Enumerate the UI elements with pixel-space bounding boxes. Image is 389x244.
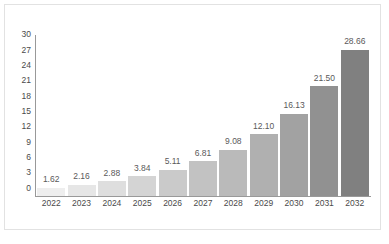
bar[interactable] — [219, 150, 247, 196]
bar-value-label: 9.08 — [225, 137, 242, 146]
bar-slot[interactable]: 5.11 — [158, 35, 188, 196]
bar[interactable] — [98, 181, 126, 196]
x-tick-label: 2027 — [188, 199, 218, 208]
bar-slot[interactable]: 28.66 — [340, 35, 370, 196]
y-tick-label: 15 — [9, 107, 31, 116]
bar-value-label: 6.81 — [195, 149, 212, 158]
y-tick-label: 24 — [9, 61, 31, 70]
bar-slot[interactable]: 6.81 — [188, 35, 218, 196]
x-tick-label: 2023 — [67, 199, 97, 208]
x-tick-label: 2029 — [249, 199, 279, 208]
x-tick-label: 2030 — [279, 199, 309, 208]
bar[interactable] — [128, 176, 156, 196]
y-tick-label: 30 — [9, 30, 31, 39]
bar-slot[interactable]: 9.08 — [218, 35, 248, 196]
bar-value-label: 1.62 — [43, 175, 60, 184]
bar[interactable] — [310, 86, 338, 196]
bar[interactable] — [68, 185, 96, 196]
bar[interactable] — [189, 161, 217, 196]
bar-value-label: 5.11 — [165, 157, 181, 166]
bar-slot[interactable]: 1.62 — [36, 35, 66, 196]
chart-figure: 036912151821242730 1.622.162.883.845.116… — [0, 0, 389, 244]
x-tick-label: 2022 — [36, 199, 66, 208]
x-tick-label: 2026 — [158, 199, 188, 208]
bar-value-label: 2.16 — [73, 172, 90, 181]
bar-value-label: 2.88 — [104, 169, 121, 178]
y-tick-label: 6 — [9, 153, 31, 162]
x-axis-line — [35, 196, 371, 197]
x-tick-label: 2032 — [340, 199, 370, 208]
y-tick-label: 27 — [9, 45, 31, 54]
x-axis-ticks: 2022202320242025202620272028202920302031… — [36, 199, 370, 208]
y-tick-label: 12 — [9, 122, 31, 131]
bar[interactable] — [341, 50, 369, 196]
bar-value-label: 3.84 — [134, 164, 151, 173]
bar-slot[interactable]: 16.13 — [279, 35, 309, 196]
x-tick-label: 2028 — [218, 199, 248, 208]
bar[interactable] — [280, 114, 308, 196]
y-tick-label: 3 — [9, 168, 31, 177]
y-tick-label: 0 — [9, 183, 31, 192]
y-tick-label: 9 — [9, 137, 31, 146]
bar-slot[interactable]: 2.88 — [97, 35, 127, 196]
x-tick-label: 2024 — [97, 199, 127, 208]
bar-slot[interactable]: 2.16 — [67, 35, 97, 196]
bar-slot[interactable]: 3.84 — [127, 35, 157, 196]
bar-series: 1.622.162.883.845.116.819.0812.1016.1321… — [36, 35, 370, 196]
y-tick-label: 21 — [9, 76, 31, 85]
bar-value-label: 12.10 — [253, 122, 274, 131]
bar-value-label: 21.50 — [314, 74, 335, 83]
bar[interactable] — [250, 134, 278, 196]
y-tick-label: 18 — [9, 91, 31, 100]
bar-slot[interactable]: 12.10 — [249, 35, 279, 196]
x-tick-label: 2031 — [309, 199, 339, 208]
bar-value-label: 28.66 — [344, 37, 365, 46]
bar-value-label: 16.13 — [283, 101, 304, 110]
bar[interactable] — [159, 170, 187, 196]
x-tick-label: 2025 — [127, 199, 157, 208]
bar[interactable] — [37, 188, 65, 196]
chart-frame: 036912151821242730 1.622.162.883.845.116… — [4, 4, 381, 230]
bar-slot[interactable]: 21.50 — [309, 35, 339, 196]
